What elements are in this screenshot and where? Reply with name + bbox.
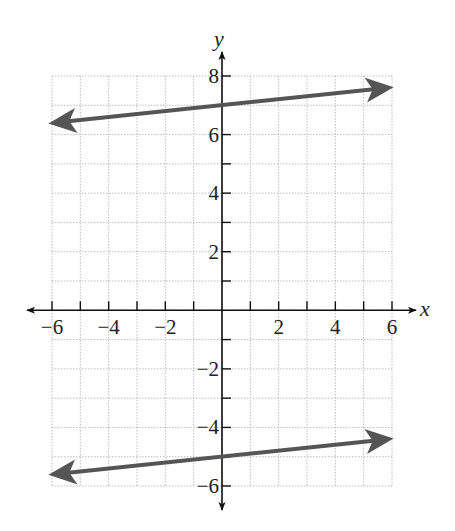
- x-tick-label: 4: [330, 315, 341, 339]
- y-tick-label: −6: [197, 474, 219, 498]
- coordinate-plane: −6−4−2246−6−4−22468 x y: [0, 0, 455, 531]
- x-tick-label: −6: [41, 315, 63, 339]
- x-tick-label: −4: [97, 315, 120, 339]
- y-tick-label: 8: [209, 64, 220, 88]
- y-axis-label: y: [212, 26, 224, 51]
- y-tick-label: −2: [197, 357, 219, 381]
- y-tick-label: −4: [197, 415, 220, 439]
- x-tick-label: 2: [273, 315, 284, 339]
- y-tick-label: 2: [209, 240, 220, 264]
- y-tick-label: 6: [209, 123, 220, 147]
- y-tick-label: 4: [209, 181, 220, 205]
- x-tick-label: 6: [387, 315, 398, 339]
- x-tick-label: −2: [154, 315, 176, 339]
- x-axis-label: x: [419, 296, 430, 321]
